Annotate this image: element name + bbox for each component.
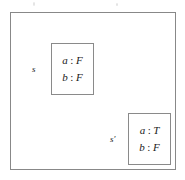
outer-state-space-frame: a : F b : F a : T b : F s s′ — [10, 12, 176, 170]
state-box-s: a : F b : F — [51, 43, 94, 95]
assignment-row: a : F — [62, 55, 82, 66]
assignment-separator: : — [147, 142, 150, 153]
assignment-variable: b — [139, 142, 145, 153]
assignment-row: b : F — [62, 72, 82, 83]
assignment-value: F — [153, 142, 160, 153]
assignment-separator: : — [70, 72, 73, 83]
state-box-s-prime: a : T b : F — [128, 113, 171, 165]
assignment-value: T — [153, 125, 159, 136]
assignment-separator: : — [148, 125, 151, 136]
scan-artifact-right — [116, 3, 118, 6]
state-label-s-prime: s′ — [110, 135, 115, 144]
assignment-variable: a — [62, 55, 68, 66]
assignment-value: F — [76, 55, 83, 66]
assignment-row: b : F — [139, 142, 159, 153]
state-label-s: s — [32, 65, 36, 74]
assignment-value: F — [76, 72, 83, 83]
assignment-variable: b — [62, 72, 68, 83]
scan-artifact-left — [33, 2, 35, 6]
assignment-separator: : — [70, 55, 73, 66]
state-valuation-diagram: a : F b : F a : T b : F s s′ — [0, 0, 185, 180]
assignment-row: a : T — [140, 125, 160, 136]
assignment-variable: a — [140, 125, 146, 136]
